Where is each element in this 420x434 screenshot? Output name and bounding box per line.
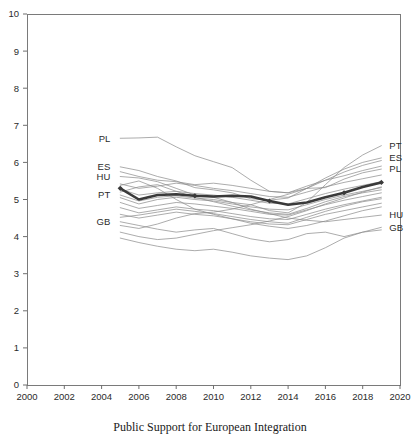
right-label-pt: PT bbox=[389, 140, 401, 151]
series-line-country-16 bbox=[120, 230, 381, 260]
x-tick-label: 2008 bbox=[166, 391, 187, 402]
y-tick-label: 6 bbox=[14, 157, 19, 168]
right-label-hu: HU bbox=[389, 209, 403, 220]
y-tick-label: 7 bbox=[14, 120, 19, 131]
right-label-es: ES bbox=[389, 152, 402, 163]
x-tick-label: 2010 bbox=[203, 391, 224, 402]
y-tick-label: 4 bbox=[14, 231, 19, 242]
figure-caption: Public Support for European Integration bbox=[0, 420, 420, 434]
left-label-hu: HU bbox=[97, 171, 111, 182]
series-lines bbox=[118, 137, 384, 259]
right-label-pl: PL bbox=[389, 163, 401, 174]
left-label-gb: GB bbox=[97, 216, 111, 227]
x-tick-label: 2014 bbox=[278, 391, 299, 402]
series-line-pl bbox=[120, 137, 381, 193]
x-tick-label: 2002 bbox=[54, 391, 75, 402]
y-tick-label: 8 bbox=[14, 83, 19, 94]
y-tick-label: 5 bbox=[14, 194, 19, 205]
x-tick-label: 2012 bbox=[240, 391, 261, 402]
series-line-pt bbox=[120, 146, 381, 213]
y-tick-label: 0 bbox=[14, 379, 19, 390]
left-label-pt: PT bbox=[98, 189, 110, 200]
mean-marker bbox=[379, 180, 384, 185]
y-tick-label: 1 bbox=[14, 342, 19, 353]
y-axis-ticks: 012345678910 bbox=[8, 8, 27, 390]
y-tick-label: 10 bbox=[8, 8, 19, 19]
x-tick-label: 2004 bbox=[91, 391, 112, 402]
left-label-pl: PL bbox=[99, 133, 111, 144]
x-tick-label: 2006 bbox=[128, 391, 149, 402]
x-tick-label: 2020 bbox=[389, 391, 410, 402]
x-tick-label: 2000 bbox=[16, 391, 37, 402]
y-tick-label: 2 bbox=[14, 305, 19, 316]
x-tick-label: 2016 bbox=[315, 391, 336, 402]
x-axis-ticks: 2000200220042006200820102012201420162018… bbox=[16, 385, 410, 402]
y-tick-label: 3 bbox=[14, 268, 19, 279]
y-tick-label: 9 bbox=[14, 46, 19, 57]
right-label-gb: GB bbox=[389, 222, 403, 233]
chart-figure: 012345678910 200020022004200620082010201… bbox=[0, 0, 420, 434]
line-chart-canvas: 012345678910 200020022004200620082010201… bbox=[0, 0, 420, 434]
x-tick-label: 2018 bbox=[352, 391, 373, 402]
